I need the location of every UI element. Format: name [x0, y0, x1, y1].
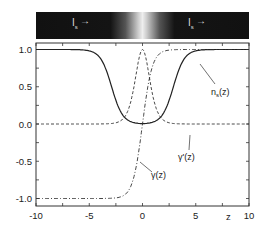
- svg-text:-1.0: -1.0: [16, 193, 32, 204]
- x-axis-label: z: [226, 211, 231, 222]
- svg-text:-5: -5: [85, 210, 93, 221]
- svg-text:-10: -10: [29, 210, 43, 221]
- ns-curve: [36, 50, 249, 124]
- svg-text:0: 0: [140, 210, 145, 221]
- svg-text:10: 10: [244, 210, 255, 221]
- curves: [36, 50, 249, 199]
- gamma-prime-annotation: γ'(z): [178, 152, 195, 162]
- svg-text:-0.5: -0.5: [16, 156, 32, 167]
- svg-text:0.0: 0.0: [19, 119, 32, 130]
- ns-annotation: ns(z): [211, 87, 230, 98]
- annotations: ns(z) γ'(z) γ(z) z: [140, 64, 231, 222]
- svg-text:1.0: 1.0: [19, 44, 32, 55]
- gamma-prime-curve: [36, 50, 249, 125]
- tick-labels: -10-505101.00.50.0-0.5-1.0: [16, 44, 255, 221]
- chart: -10-505101.00.50.0-0.5-1.0 ns(z) γ'(z) γ…: [0, 0, 266, 232]
- gamma-annotation: γ(z): [151, 170, 166, 180]
- svg-text:5: 5: [193, 210, 198, 221]
- svg-text:0.5: 0.5: [19, 81, 32, 92]
